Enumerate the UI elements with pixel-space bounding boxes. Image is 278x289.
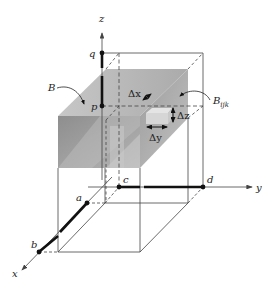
triple-integral-box-diagram: z y x q p c d a b B Bijk Δx Δz Δy [0, 0, 278, 289]
y-axis-label: y [255, 182, 262, 193]
x-axis-label: x [12, 268, 18, 279]
label-dy: Δy [149, 132, 162, 143]
label-dx: Δx [128, 88, 141, 99]
label-p: p [91, 101, 98, 112]
label-c: c [123, 174, 129, 185]
label-a: a [76, 192, 82, 203]
label-Bijk: Bijk [212, 95, 229, 109]
z-axis-label: z [98, 13, 105, 24]
label-B: B [47, 82, 55, 93]
point-d [201, 185, 206, 190]
subbox-Bijk [146, 108, 172, 124]
label-dz: Δz [177, 110, 190, 121]
base-box [39, 168, 203, 252]
point-c [117, 185, 122, 190]
point-q [100, 51, 105, 56]
point-b [37, 250, 42, 255]
segment-ab [60, 203, 87, 232]
point-p [100, 104, 105, 109]
label-d: d [207, 174, 213, 185]
label-b: b [31, 239, 37, 250]
point-a [85, 201, 90, 206]
label-q: q [89, 48, 95, 59]
